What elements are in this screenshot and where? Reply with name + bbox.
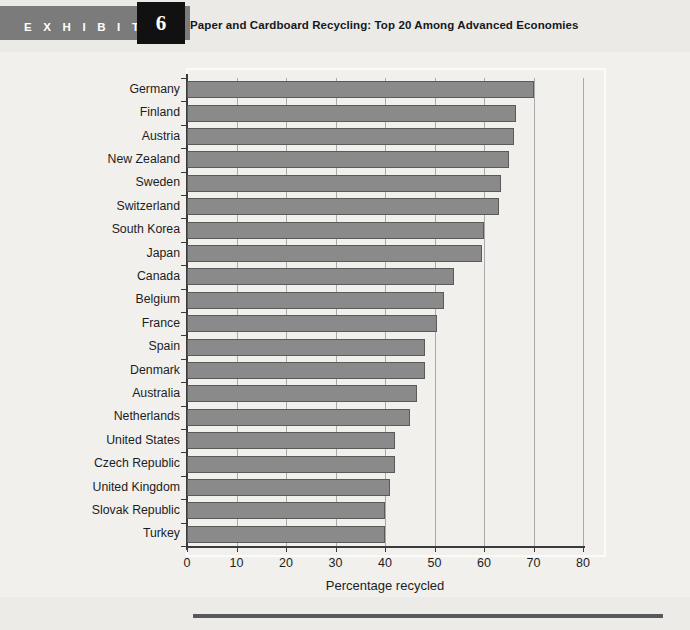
- x-tick-20: [286, 546, 287, 552]
- exhibit-header-band: E X H I B I T 6 Paper and Cardboard Recy…: [0, 0, 690, 52]
- y-tick: [181, 78, 187, 79]
- category-label: Spain: [10, 339, 180, 353]
- bar: [187, 198, 499, 215]
- y-tick: [181, 406, 187, 407]
- x-tick-label-0: 0: [167, 556, 207, 570]
- footer-note: [430, 620, 688, 629]
- category-label: France: [10, 316, 180, 330]
- x-tick-label-50: 50: [415, 556, 455, 570]
- category-label: Finland: [10, 105, 180, 119]
- category-label: Czech Republic: [10, 456, 180, 470]
- x-tick-label-20: 20: [266, 556, 306, 570]
- gridline-50: [435, 78, 436, 546]
- gridline-70: [534, 78, 535, 546]
- exhibit-number-box: 6: [137, 2, 185, 44]
- category-label: New Zealand: [10, 152, 180, 166]
- x-tick-10: [237, 546, 238, 552]
- category-label: Slovak Republic: [10, 503, 180, 517]
- bar: [187, 222, 484, 239]
- bar: [187, 105, 516, 122]
- category-label: Austria: [10, 129, 180, 143]
- y-tick: [181, 382, 187, 383]
- bar: [187, 81, 534, 98]
- category-label: Denmark: [10, 363, 180, 377]
- y-tick: [181, 172, 187, 173]
- x-tick-label-40: 40: [365, 556, 405, 570]
- category-label: Switzerland: [10, 199, 180, 213]
- category-label: Belgium: [10, 292, 180, 306]
- gridline-80: [583, 78, 584, 546]
- category-label: Turkey: [10, 526, 180, 540]
- y-tick: [181, 218, 187, 219]
- y-tick: [181, 452, 187, 453]
- x-tick-50: [435, 546, 436, 552]
- y-tick: [181, 265, 187, 266]
- x-tick-label-80: 80: [563, 556, 603, 570]
- y-tick: [181, 476, 187, 477]
- category-label: Netherlands: [10, 409, 180, 423]
- bar: [187, 479, 390, 496]
- category-label: Germany: [10, 82, 180, 96]
- category-label: United States: [10, 433, 180, 447]
- y-tick: [181, 312, 187, 313]
- y-tick: [181, 289, 187, 290]
- bar: [187, 151, 509, 168]
- category-label: Sweden: [10, 175, 180, 189]
- y-tick: [181, 429, 187, 430]
- x-tick-0: [187, 546, 188, 552]
- gridline-20: [286, 78, 287, 546]
- x-tick-label-10: 10: [217, 556, 257, 570]
- x-tick-30: [336, 546, 337, 552]
- bar: [187, 245, 482, 262]
- bar: [187, 339, 425, 356]
- y-tick: [181, 499, 187, 500]
- gridline-60: [484, 78, 485, 546]
- exhibit-title: Paper and Cardboard Recycling: Top 20 Am…: [190, 19, 579, 31]
- x-tick-60: [484, 546, 485, 552]
- category-label: Canada: [10, 269, 180, 283]
- category-label: Australia: [10, 386, 180, 400]
- y-tick: [181, 523, 187, 524]
- category-label: South Korea: [10, 222, 180, 236]
- plot-area: 01020304050607080: [187, 78, 583, 546]
- y-tick: [181, 195, 187, 196]
- bar: [187, 268, 454, 285]
- bar: [187, 175, 501, 192]
- gridline-40: [385, 78, 386, 546]
- bar: [187, 128, 514, 145]
- y-tick: [181, 335, 187, 336]
- y-tick: [181, 101, 187, 102]
- exhibit-word-label: E X H I B I T: [24, 21, 143, 33]
- x-tick-40: [385, 546, 386, 552]
- bar: [187, 315, 437, 332]
- category-label: Japan: [10, 246, 180, 260]
- x-tick-70: [534, 546, 535, 552]
- bar: [187, 456, 395, 473]
- category-axis-labels: GermanyFinlandAustriaNew ZealandSwedenSw…: [8, 78, 180, 546]
- x-tick-80: [583, 546, 584, 552]
- bar: [187, 409, 410, 426]
- bar: [187, 385, 417, 402]
- bar: [187, 292, 444, 309]
- x-axis-title: Percentage recycled: [187, 578, 583, 593]
- bar: [187, 432, 395, 449]
- x-tick-label-60: 60: [464, 556, 504, 570]
- bar: [187, 502, 385, 519]
- category-label: United Kingdom: [10, 480, 180, 494]
- y-tick: [181, 148, 187, 149]
- x-tick-label-30: 30: [316, 556, 356, 570]
- y-tick: [181, 242, 187, 243]
- y-tick: [181, 546, 187, 547]
- gridline-10: [237, 78, 238, 546]
- exhibit-number: 6: [137, 2, 185, 44]
- bar: [187, 526, 385, 543]
- y-tick: [181, 125, 187, 126]
- x-tick-label-70: 70: [514, 556, 554, 570]
- footer-rule: [193, 614, 663, 618]
- bar: [187, 362, 425, 379]
- y-tick: [181, 359, 187, 360]
- gridline-30: [336, 78, 337, 546]
